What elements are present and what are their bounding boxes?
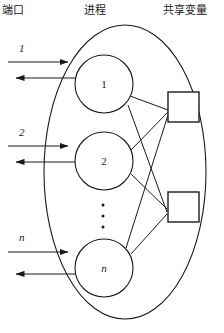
column-header-process: 进程 (84, 4, 106, 17)
process-node-label-2: 2 (92, 155, 116, 167)
column-header-shared-variables: 共享变量 (163, 4, 207, 17)
port-label-n: n (19, 231, 25, 243)
process-communication-diagram: 端口 进程 共享变量 (0, 0, 224, 333)
shared-variable-box-2 (168, 192, 199, 222)
shared-variable-box-1 (168, 92, 199, 122)
process-node-label-n: n (92, 262, 116, 274)
process-node-label-1: 1 (92, 78, 116, 90)
port-label-1: 1 (19, 42, 25, 54)
port-label-2: 2 (19, 126, 25, 138)
column-header-ports: 端口 (2, 4, 24, 17)
